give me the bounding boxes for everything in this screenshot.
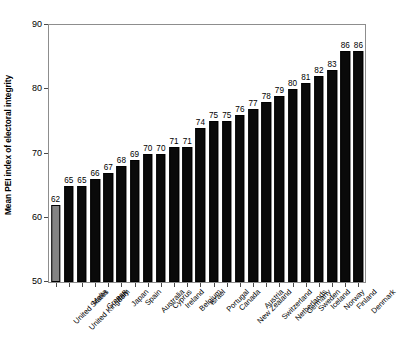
bar-value-label: 78 — [262, 92, 271, 101]
bar-slot[interactable]: 75 — [220, 25, 233, 282]
bar-slot[interactable]: 80 — [286, 25, 299, 282]
x-axis-tick-mark — [108, 283, 109, 287]
bar-slot[interactable]: 76 — [233, 25, 246, 282]
bar-slot[interactable]: 74 — [194, 25, 207, 282]
bar[interactable] — [209, 121, 218, 282]
bar[interactable] — [314, 76, 323, 282]
bar-value-label: 65 — [77, 176, 86, 185]
bar-slot[interactable]: 65 — [75, 25, 88, 282]
bar-slot[interactable]: 70 — [141, 25, 154, 282]
y-axis-title: Mean PEI index of electoral integrity — [0, 0, 16, 290]
bar-slot[interactable]: 67 — [102, 25, 115, 282]
x-axis-tick-mark — [95, 283, 96, 287]
x-axis-tick-mark — [279, 283, 280, 287]
bar-value-label: 68 — [117, 156, 126, 165]
bar-value-label: 66 — [91, 169, 100, 178]
bar-value-label: 65 — [64, 176, 73, 185]
bar-slot[interactable]: 69 — [128, 25, 141, 282]
bar[interactable] — [275, 96, 284, 282]
bar-value-label: 77 — [249, 99, 258, 108]
bar[interactable] — [130, 160, 139, 282]
bar-slot[interactable]: 68 — [115, 25, 128, 282]
bar[interactable] — [327, 70, 336, 282]
bar-slot[interactable]: 81 — [299, 25, 312, 282]
y-axis-title-text: Mean PEI index of electoral integrity — [3, 75, 13, 215]
bar-value-label: 82 — [314, 66, 323, 75]
bar[interactable] — [301, 83, 310, 282]
bar-value-label: 62 — [51, 195, 60, 204]
bar[interactable] — [77, 186, 86, 282]
bar-value-label: 71 — [170, 137, 179, 146]
x-axis-tick-mark — [266, 283, 267, 287]
bar-value-label: 70 — [156, 144, 165, 153]
bar-value-label: 69 — [130, 150, 139, 159]
bar[interactable] — [104, 173, 113, 282]
bar-slot[interactable]: 83 — [326, 25, 339, 282]
bar[interactable] — [235, 115, 244, 282]
bar-slot[interactable]: 62 — [49, 25, 62, 282]
bar-value-label: 79 — [275, 86, 284, 95]
plot-area: 6265656667686970707171747575767778798081… — [49, 25, 365, 282]
bar-slot[interactable]: 82 — [312, 25, 325, 282]
x-axis-tick-mark — [293, 283, 294, 287]
bar-value-label: 81 — [301, 73, 310, 82]
bar-value-label: 86 — [341, 41, 350, 50]
x-axis-tick-mark — [200, 283, 201, 287]
bar[interactable] — [354, 51, 363, 282]
y-axis-tick-label: 80 — [32, 82, 42, 94]
bar[interactable] — [288, 89, 297, 282]
bar-value-label: 67 — [104, 163, 113, 172]
bar[interactable] — [51, 205, 60, 282]
x-axis-tick-mark — [227, 283, 228, 287]
x-axis-tick-mark — [214, 283, 215, 287]
bar-value-label: 75 — [209, 111, 218, 120]
bar[interactable] — [117, 166, 126, 282]
x-axis-tick-mark — [174, 283, 175, 287]
bar-slot[interactable]: 86 — [339, 25, 352, 282]
bar[interactable] — [196, 128, 205, 282]
bar-slot[interactable]: 75 — [207, 25, 220, 282]
y-axis-tick-label: 70 — [32, 147, 42, 159]
y-axis-tick-label: 60 — [32, 211, 42, 223]
bar[interactable] — [143, 154, 152, 283]
bar-value-label: 83 — [328, 60, 337, 69]
x-axis-tick-mark — [82, 283, 83, 287]
x-axis-labels: United StatesUnited KingdomMaltaGreeceIt… — [49, 288, 365, 348]
bar-value-label: 80 — [288, 79, 297, 88]
bar[interactable] — [169, 147, 178, 282]
x-axis-tick-mark — [161, 283, 162, 287]
y-axis-tick-label: 90 — [32, 18, 42, 30]
bar-slot[interactable]: 78 — [260, 25, 273, 282]
x-axis-tick-mark — [148, 283, 149, 287]
bar[interactable] — [248, 109, 257, 282]
x-axis-tick-mark — [253, 283, 254, 287]
x-axis-tick-mark — [187, 283, 188, 287]
x-axis-tick-mark — [69, 283, 70, 287]
y-axis: 5060708090 — [20, 24, 48, 283]
x-axis-tick-mark — [319, 283, 320, 287]
y-axis-tick-label: 50 — [32, 275, 42, 287]
bar-slot[interactable]: 70 — [154, 25, 167, 282]
bar[interactable] — [341, 51, 350, 282]
bar-slot[interactable]: 86 — [352, 25, 365, 282]
bar-slot[interactable]: 65 — [62, 25, 75, 282]
x-axis-tick-mark — [56, 283, 57, 287]
bar[interactable] — [90, 179, 99, 282]
bar-value-label: 75 — [222, 111, 231, 120]
bar-slot[interactable]: 71 — [168, 25, 181, 282]
x-axis-tick-mark — [332, 283, 333, 287]
bar[interactable] — [222, 121, 231, 282]
bar-value-label: 70 — [143, 144, 152, 153]
bar-slot[interactable]: 66 — [89, 25, 102, 282]
bar-slot[interactable]: 71 — [181, 25, 194, 282]
bar-value-label: 74 — [196, 118, 205, 127]
bar-slot[interactable]: 79 — [273, 25, 286, 282]
x-axis-tick-mark — [240, 283, 241, 287]
bar[interactable] — [262, 102, 271, 282]
bar[interactable] — [183, 147, 192, 282]
bar[interactable] — [156, 154, 165, 283]
bar-value-label: 86 — [354, 41, 363, 50]
bar-slot[interactable]: 77 — [247, 25, 260, 282]
bar[interactable] — [64, 186, 73, 282]
